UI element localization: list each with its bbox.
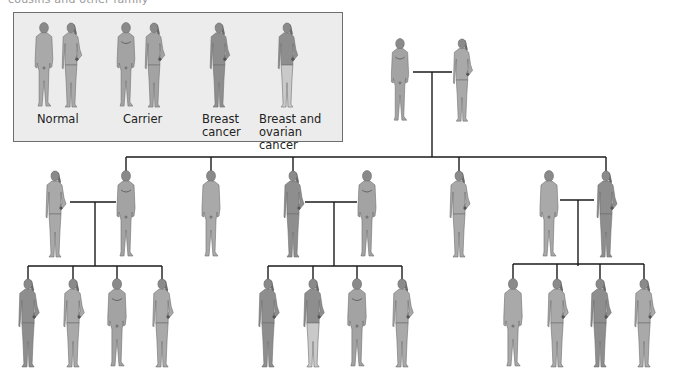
female-figure-normal: [548, 279, 568, 367]
female-figure-normal: [46, 171, 66, 257]
female-figure-breast: [259, 279, 279, 367]
male-figure-normal: [202, 171, 220, 257]
female-figure-breast_ovarian: [304, 279, 324, 367]
female-figure-normal: [153, 279, 173, 367]
female-figure-normal: [393, 279, 413, 367]
pedigree-chart: [0, 0, 680, 377]
male-figure-carrier: [391, 38, 408, 120]
male-figure-carrier: [348, 279, 366, 366]
female-figure-normal: [453, 39, 472, 121]
male-figure-carrier: [358, 171, 376, 257]
male-figure-normal: [540, 171, 558, 257]
female-figure-normal: [64, 279, 84, 367]
female-figure-breast: [597, 171, 617, 257]
female-figure-breast: [591, 279, 611, 367]
female-figure-breast: [284, 171, 304, 257]
female-figure-normal: [635, 279, 655, 367]
male-figure-carrier: [117, 171, 135, 257]
female-figure-normal: [450, 171, 470, 257]
male-figure-normal: [504, 279, 522, 366]
female-figure-breast: [19, 279, 39, 367]
male-figure-carrier: [108, 279, 126, 366]
